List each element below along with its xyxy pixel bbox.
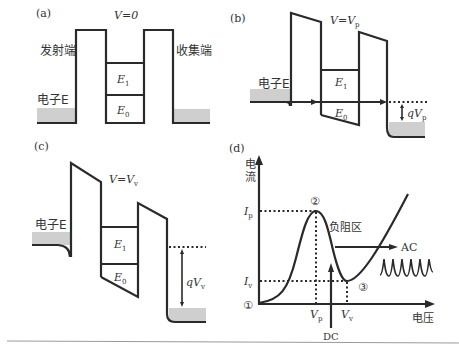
panel-c-electron-label: 电子E <box>35 218 67 232</box>
panel-a-e0-label: E0 <box>116 104 130 119</box>
panel-c-e1-label: E1 <box>113 238 127 253</box>
panel-a-voltage-label: V=0 <box>114 9 138 22</box>
iv-curve <box>259 194 408 303</box>
panel-b-electron-label: 电子E <box>258 77 290 91</box>
panel-c-tag: (c) <box>34 140 49 153</box>
panel-b-collector-fill <box>389 122 425 137</box>
vp-label: Vp <box>310 308 323 323</box>
panel-c-qv-label: qVv <box>186 276 205 291</box>
dc-label: DC <box>323 331 339 342</box>
panel-d: (d) 电 流 电压 Ip Iv Vp Vv ① ② ③ 负阻区 AC <box>229 142 435 342</box>
panel-a-tag: (a) <box>36 7 51 20</box>
ac-label: AC <box>400 241 417 254</box>
panel-b-emitter-fill <box>250 89 290 102</box>
arrow-right-icon <box>389 244 398 250</box>
x-axis-label: 电压 <box>412 312 434 325</box>
ac-waveform <box>380 259 433 276</box>
panel-c-e0-label: E0 <box>113 271 127 286</box>
panel-c-left-barrier <box>71 163 101 277</box>
y-axis-label-bottom: 流 <box>245 170 256 184</box>
ndr-label: 负阻区 <box>329 220 362 234</box>
arrow-up-icon <box>328 263 334 272</box>
panel-b-voltage-label: V=Vp <box>330 14 360 29</box>
panel-c-collector-fill <box>169 308 206 322</box>
arrow-up-icon <box>400 104 404 108</box>
panel-b-left-barrier <box>291 13 321 115</box>
arrow-down-icon <box>180 302 184 307</box>
panel-b-qv-label: qVp <box>407 107 427 122</box>
y-axis-label-top: 电 <box>245 158 256 171</box>
arrow-down-icon <box>400 117 404 121</box>
y-axis-arrow-icon <box>255 155 263 165</box>
panel-a-e1-label: E1 <box>116 73 130 88</box>
panel-a: (a) V=0 发射端 收集端 电子E E1 E0 <box>36 7 212 123</box>
panel-b-e1-label: E1 <box>334 76 348 91</box>
rtd-figure: (a) V=0 发射端 收集端 电子E E1 E0 (b) V=Vp 电子E <box>0 0 459 361</box>
point-2-marker: ② <box>310 195 320 208</box>
arrow-head-icon <box>311 99 318 105</box>
emitter-label: 发射端 <box>40 43 76 58</box>
arrow-up-icon <box>180 249 184 254</box>
panel-c-emitter-band <box>32 245 70 257</box>
panel-b-e0-label: E0 <box>334 107 348 122</box>
panel-d-tag: (d) <box>229 142 245 155</box>
point-3-marker: ③ <box>358 281 368 294</box>
panel-b-right-barrier <box>321 32 387 128</box>
emitter-electron-fill <box>37 108 76 123</box>
panel-c-emitter-fill <box>32 232 70 245</box>
panel-b: (b) V=Vp 电子E qVp E1 E0 <box>230 12 428 137</box>
collector-electron-fill <box>173 109 210 123</box>
x-axis-arrow-icon <box>425 300 435 308</box>
panel-a-electron-label: 电子E <box>37 93 69 107</box>
ip-label: Ip <box>243 205 253 220</box>
panel-c: (c) V=Vv 电子E qVv E1 E0 <box>32 140 206 322</box>
iv-label: Iv <box>243 275 252 290</box>
panel-c-right-barrier <box>101 203 167 314</box>
panel-b-tag: (b) <box>230 12 246 25</box>
bottom-divider <box>7 341 459 343</box>
vv-label: Vv <box>341 308 353 323</box>
panel-c-voltage-label: V=Vv <box>109 173 138 188</box>
point-1-marker: ① <box>243 299 253 312</box>
collector-label: 收集端 <box>176 43 212 58</box>
